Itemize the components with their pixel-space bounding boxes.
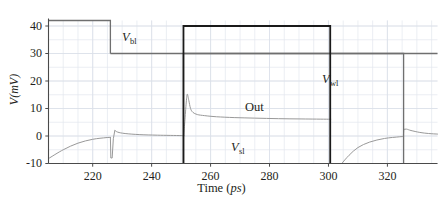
x-axis-title-main: Time [197, 181, 223, 195]
series-vsl-recovery [49, 137, 111, 158]
curve-label-symbol: V [122, 30, 130, 44]
curve-label-symbol: V [231, 140, 239, 154]
curve-label-vbl: Vbl [122, 30, 136, 45]
series-vsl-decay-2 [404, 129, 438, 134]
curve-label-symbol: Out [245, 100, 264, 114]
curve-label-symbol: V [322, 72, 330, 86]
series-vbl-pulse [49, 21, 111, 54]
x-axis-title: Time (ps) [0, 181, 443, 196]
curve-label-vwl: Vwl [322, 72, 338, 87]
y-tick-label: -10 [8, 156, 42, 171]
curve-label-out: Out [245, 100, 264, 115]
chart-figure: 403020100-10 220240260280300320 V(mV) Ti… [0, 0, 443, 204]
y-tick-label: 40 [8, 19, 42, 34]
x-axis-title-unit: ps [230, 181, 241, 195]
curve-label-subscript: bl [130, 36, 137, 46]
series-vsl-decay [115, 131, 184, 136]
y-tick-label: 0 [8, 129, 42, 144]
curve-label-subscript: sl [239, 146, 245, 156]
curve-label-subscript: wl [330, 78, 339, 88]
curve-label-vsl: Vsl [231, 140, 244, 155]
tick-marks [45, 26, 387, 167]
y-axis-title: V(mV) [7, 59, 22, 121]
series-vsl-glitch [110, 131, 114, 159]
y-axis-title-unit: mV [7, 78, 21, 94]
y-axis-title-symbol: V [7, 98, 21, 105]
